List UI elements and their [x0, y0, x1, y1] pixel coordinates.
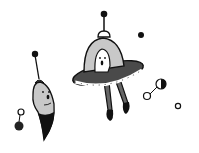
alien-mouth	[101, 61, 104, 66]
alien-eye-left	[99, 57, 101, 59]
bullet-alien	[32, 51, 54, 140]
alien-leg-left	[104, 82, 112, 110]
floating-dot	[138, 32, 144, 38]
alien-foot-left	[106, 110, 113, 121]
illustration-canvas	[0, 0, 199, 153]
bullet-eye-left	[42, 91, 44, 93]
bullet-antenna-ball	[32, 51, 38, 57]
alien-leg-right	[116, 82, 128, 104]
small-ring	[175, 103, 180, 108]
dumbbell-small-ring	[144, 93, 151, 100]
bullet-antenna	[35, 55, 39, 79]
bullet-tail	[38, 112, 54, 140]
pendant-ball	[15, 122, 24, 131]
ufo-antenna-ball	[101, 11, 108, 18]
pendant-string	[19, 115, 20, 122]
bullet-eye-right	[48, 91, 50, 93]
space-doodle	[0, 0, 199, 153]
pendant-orbit	[15, 109, 25, 131]
bullet-nose	[47, 95, 50, 99]
dumbbell-orbit	[144, 79, 167, 100]
ufo-alien	[71, 11, 146, 121]
ufo-cap	[98, 31, 110, 37]
alien-eye-right	[104, 57, 106, 59]
pendant-ring	[18, 109, 24, 115]
alien-foot-right	[123, 102, 130, 114]
